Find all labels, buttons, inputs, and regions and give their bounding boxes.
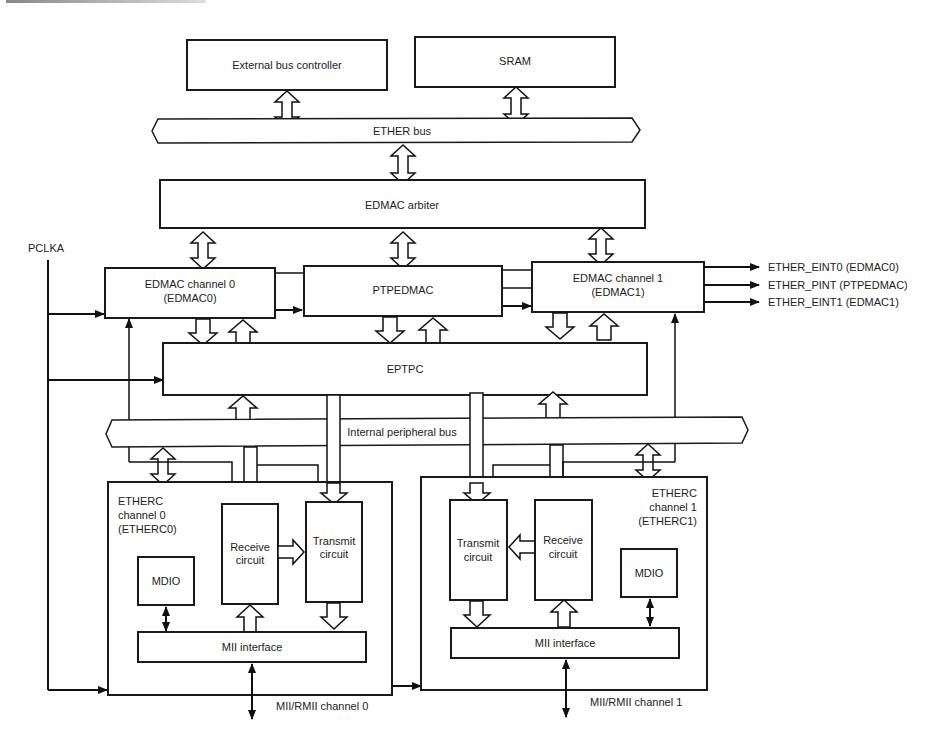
rx1-label-line1: Receive (543, 534, 583, 546)
edmac1-label-line2: (EDMAC1) (591, 286, 644, 298)
mii1-label: MII interface (535, 637, 596, 649)
bus-eptpc-up-arrow-right (539, 392, 567, 420)
ether-bus-label: ETHER bus (373, 125, 432, 137)
eptpc-block: EPTPC (163, 343, 647, 395)
mii-interface-1: MII interface (451, 628, 679, 658)
edmac1-label-line1: EDMAC channel 1 (573, 272, 664, 284)
ptpedmac-eptpc-down-arrow (376, 317, 404, 343)
arbiter-edmac0-arrow (191, 232, 215, 269)
tx0-label-line2: circuit (320, 548, 349, 560)
ether-bus: ETHER bus (152, 118, 640, 143)
etherc0-label-line1: ETHERC (118, 495, 163, 507)
eptpc-ptpedmac-up-arrow (419, 318, 447, 344)
sram-label: SRAM (499, 55, 531, 67)
mii-rmii-channel-0-label: MII/RMII channel 0 (276, 700, 368, 712)
etherc0-label-line2: channel 0 (118, 509, 166, 521)
etherc0-label-line3: (ETHERC0) (118, 523, 177, 535)
transmit-circuit-0: Transmit circuit (306, 502, 362, 602)
eptpc-label: EPTPC (387, 363, 424, 375)
mii0-label: MII interface (222, 641, 283, 653)
etherc1-label-line3: (ETHERC1) (638, 515, 697, 527)
internal-peripheral-bus: Internal peripheral bus (106, 417, 748, 447)
ether-eint0-label: ETHER_EINT0 (EDMAC0) (768, 261, 899, 273)
edmac-channel-0-block: EDMAC channel 0 (EDMAC0) (105, 268, 275, 318)
edmac1-eptpc-down-arrow (546, 313, 574, 339)
bus-etherc0-arrow (151, 448, 175, 485)
ptpedmac-label: PTPEDMAC (372, 284, 433, 296)
mii-rmii-channel-1-label: MII/RMII channel 1 (590, 696, 682, 708)
edmac-arbiter-block: EDMAC arbiter (160, 180, 645, 228)
rx1-label-line2: circuit (549, 548, 578, 560)
eptpc-edmac1-up-arrow (590, 314, 618, 340)
sram-block: SRAM (415, 37, 615, 87)
tx1-label-line2: circuit (464, 551, 493, 563)
ptpedmac-block: PTPEDMAC (304, 266, 502, 316)
external-bus-controller-block: External bus controller (187, 40, 387, 90)
etherc1-label-line1: ETHERC (652, 487, 697, 499)
external-bus-controller-label: External bus controller (232, 59, 342, 71)
mdio-1-block: MDIO (621, 549, 677, 597)
block-diagram: External bus controller SRAM ETHER bus E… (0, 0, 949, 753)
pclka-label: PCLKA (28, 242, 65, 254)
edmac0-eptpc-down-arrow (189, 319, 217, 345)
rx0-label-line2: circuit (236, 554, 265, 566)
rx0-label-line1: Receive (230, 541, 270, 553)
internal-peripheral-bus-label: Internal peripheral bus (347, 426, 457, 438)
mdio1-label: MDIO (635, 567, 664, 579)
receive-circuit-1: Receive circuit (535, 500, 592, 600)
arbiter-edmac1-arrow (589, 228, 613, 265)
edmac0-label-line2: (EDMAC0) (163, 292, 216, 304)
mdio0-label: MDIO (152, 575, 181, 587)
mdio-0-block: MDIO (138, 557, 194, 605)
mii-interface-0: MII interface (138, 632, 366, 662)
edmac-channel-1-block: EDMAC channel 1 (EDMAC1) (532, 262, 704, 312)
arbiter-ptpedmac-arrow (391, 232, 415, 269)
tx1-label-line1: Transmit (457, 537, 499, 549)
ether-eint1-label: ETHER_EINT1 (EDMAC1) (768, 296, 899, 308)
ether-bus-arbiter-arrow (391, 145, 415, 184)
tx0-label-line1: Transmit (313, 535, 355, 547)
ether-pint-label: ETHER_PINT (PTPEDMAC) (768, 279, 908, 291)
receive-circuit-0: Receive circuit (222, 504, 278, 604)
edmac0-label-line1: EDMAC channel 0 (145, 278, 236, 290)
etherc1-label-line2: channel 1 (649, 501, 697, 513)
transmit-circuit-1: Transmit circuit (450, 500, 507, 600)
edmac-arbiter-label: EDMAC arbiter (365, 199, 439, 211)
